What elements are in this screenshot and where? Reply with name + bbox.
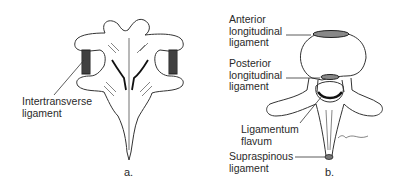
leader-line-intertransverse [54, 60, 84, 95]
intertransverse-ligament-left [82, 50, 90, 74]
anterior-longitudinal-ligament [313, 31, 349, 38]
label-ligamentum-flavum: Ligamentum flavum [241, 124, 299, 147]
panel-a-vertebrae-drawing [75, 19, 183, 160]
label-intertransverse-ligament: Intertransverse ligament [22, 96, 92, 119]
intertransverse-ligament-right [169, 50, 177, 74]
vertebra-diagram [0, 0, 393, 187]
posterior-longitudinal-ligament [321, 75, 339, 80]
label-supraspinous-ligament: Supraspinous ligament [229, 151, 293, 174]
supraspinous-ligament [325, 155, 333, 160]
label-anterior-longitudinal-ligament: Anterior longitudinal ligament [229, 14, 282, 49]
artist-signature [338, 136, 368, 138]
label-posterior-longitudinal-ligament: Posterior longitudinal ligament [229, 58, 282, 93]
caption-b: b. [325, 166, 334, 178]
caption-a: a. [124, 166, 133, 178]
